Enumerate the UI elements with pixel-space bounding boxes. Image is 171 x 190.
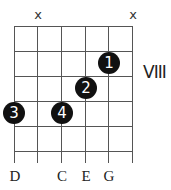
fret-line-0 (14, 26, 133, 27)
fret-line-3 (14, 101, 133, 102)
string-2 (37, 26, 38, 163)
fret-line-5 (14, 151, 133, 152)
string-6 (132, 26, 133, 163)
string-1 (14, 26, 15, 163)
finger-dot-2: 2 (75, 77, 97, 99)
muted-marker-string-6: x (126, 8, 140, 22)
note-label-string-5: G (101, 168, 117, 184)
string-3 (61, 26, 62, 163)
fret-line-4 (14, 126, 133, 127)
fret-line-1 (14, 51, 133, 52)
string-5 (108, 26, 109, 163)
finger-dot-3: 3 (3, 102, 25, 124)
finger-dot-1: 1 (98, 52, 120, 74)
note-label-string-1: D (7, 168, 23, 184)
fret-position-label: VIII (143, 62, 166, 82)
note-label-string-4: E (78, 168, 94, 184)
finger-dot-4: 4 (51, 102, 73, 124)
muted-marker-string-2: x (31, 8, 45, 22)
fret-line-2 (14, 76, 133, 77)
note-label-string-3: C (54, 168, 70, 184)
